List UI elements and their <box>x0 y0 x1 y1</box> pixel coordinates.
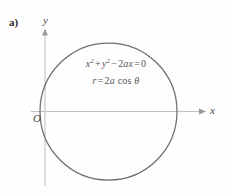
eq-polar-equals: = <box>97 75 105 86</box>
eq-polar-a: a <box>110 75 115 86</box>
y-axis-label: y <box>43 15 48 26</box>
equation-polar: r=2a cos θ <box>3 75 226 86</box>
origin-label: O <box>33 113 41 124</box>
eq-cos: cos <box>118 75 132 86</box>
figure-background <box>0 0 226 196</box>
figure-canvas <box>0 0 226 196</box>
x-axis-label: x <box>210 105 215 116</box>
figure-container: a) y x O x2+y2−2ax=0 r=2a cos θ <box>0 0 226 196</box>
eq-plus: + <box>94 58 102 69</box>
equation-cartesian: x2+y2−2ax=0 <box>3 57 226 69</box>
eq-minus: − <box>110 58 118 69</box>
eq-theta: θ <box>134 75 139 86</box>
eq-zero: 0 <box>141 58 146 69</box>
eq-equals: = <box>133 58 141 69</box>
part-label: a) <box>9 17 18 28</box>
